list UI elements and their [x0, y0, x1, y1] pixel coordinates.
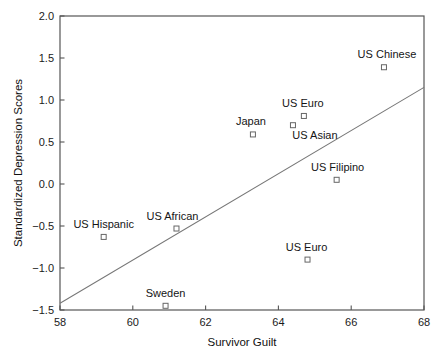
- point-label-sweden-1: Sweden: [146, 287, 186, 299]
- y-tick-label-4: 0.0: [22, 178, 54, 190]
- point-label-us-african-2: US African: [146, 210, 198, 222]
- marker-sweden-1: [163, 303, 168, 308]
- y-tick-label-7: −1.5: [22, 304, 54, 316]
- x-axis-title: Survivor Guilt: [207, 336, 276, 348]
- x-tick-label-68: 68: [418, 316, 430, 328]
- scatter-plot-figure: 586062646668 2.01.51.00.50.0−0.5−1.0−1.5…: [0, 0, 434, 356]
- marker-us-hispanic-0: [101, 234, 106, 239]
- marker-us-filipino-7: [334, 177, 339, 182]
- marker-us-chinese-8: [381, 65, 386, 70]
- y-tick-label-6: −1.0: [22, 262, 54, 274]
- point-label-us-chinese-8: US Chinese: [358, 48, 417, 60]
- data-point-markers: [101, 65, 386, 309]
- marker-us-euro-5: [301, 113, 306, 118]
- point-label-us-filipino-7: US Filipino: [311, 161, 364, 173]
- y-tick-label-2: 1.0: [22, 94, 54, 106]
- point-label-us-euro-5: US Euro: [282, 97, 324, 109]
- x-tick-label-64: 64: [272, 316, 284, 328]
- y-tick-label-0: 2.0: [22, 10, 54, 22]
- x-tick-label-60: 60: [127, 316, 139, 328]
- point-label-us-euro-6: US Euro: [286, 241, 328, 253]
- point-label-japan-3: Japan: [236, 115, 266, 127]
- y-tick-label-3: 0.5: [22, 136, 54, 148]
- marker-us-african-2: [174, 226, 179, 231]
- y-tick-label-1: 1.5: [22, 52, 54, 64]
- x-tick-label-62: 62: [199, 316, 211, 328]
- y-tick-label-5: −0.5: [22, 220, 54, 232]
- marker-us-euro-6: [305, 257, 310, 262]
- point-label-us-asian-4: US Asian: [292, 129, 337, 141]
- x-tick-label-58: 58: [54, 316, 66, 328]
- point-label-us-hispanic-0: US Hispanic: [73, 218, 134, 230]
- marker-japan-3: [250, 132, 255, 137]
- marker-us-asian-4: [290, 123, 295, 128]
- y-axis-title: Standardized Depression Scores: [12, 79, 24, 247]
- x-tick-label-66: 66: [345, 316, 357, 328]
